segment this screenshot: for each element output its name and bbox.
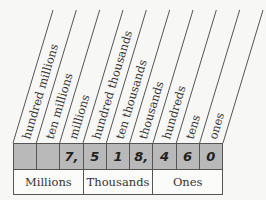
slant-divider <box>223 10 263 143</box>
digit-millions: 7, <box>60 144 83 169</box>
digit-tens: 6 <box>177 144 200 169</box>
place-value-headers: hundred millionsten millionsmillionshund… <box>0 0 266 145</box>
period-millions: Millions <box>14 170 84 194</box>
digit-ten-thousands: 1 <box>107 144 130 169</box>
digit-hundreds: 4 <box>153 144 176 169</box>
place-value-label: millions <box>66 93 93 141</box>
period-row: Millions Thousands Ones <box>14 170 222 194</box>
place-value-chart: 7, 5 1 8, 4 6 0 Millions Thousands Ones <box>13 143 223 195</box>
place-value-label: tens <box>183 113 204 141</box>
digit-ones: 0 <box>200 144 222 169</box>
digit-hundred-millions <box>14 144 37 169</box>
digit-thousands: 8, <box>130 144 153 169</box>
digit-ten-millions <box>37 144 60 169</box>
period-thousands: Thousands <box>84 170 154 194</box>
period-ones: Ones <box>153 170 222 194</box>
digit-hundred-thousands: 5 <box>84 144 107 169</box>
place-value-label: ones <box>206 111 227 141</box>
digit-row: 7, 5 1 8, 4 6 0 <box>14 144 222 170</box>
